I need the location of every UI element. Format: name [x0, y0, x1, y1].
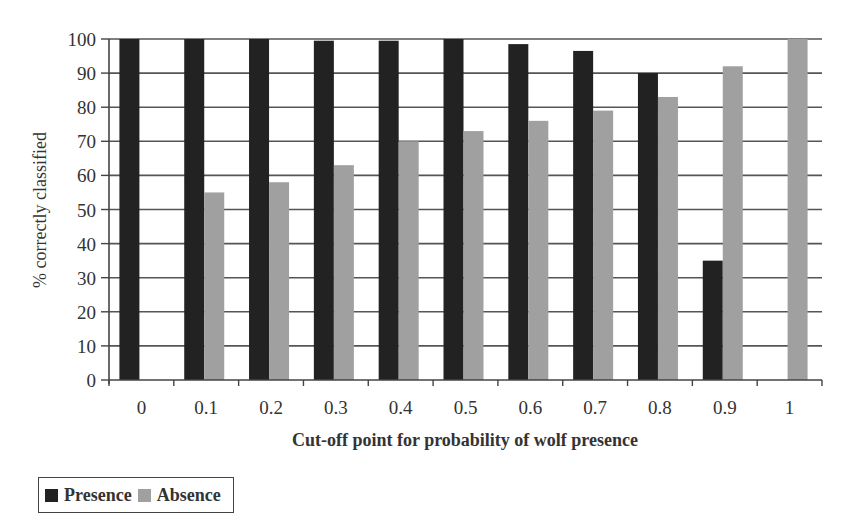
legend-label: Absence	[157, 485, 221, 506]
bar-absence	[528, 121, 548, 380]
y-axis-title: % correctly classified	[30, 132, 50, 288]
bar-presence	[508, 44, 528, 380]
bar-presence	[573, 51, 593, 380]
bar-presence	[703, 261, 723, 380]
bar-absence	[204, 192, 224, 380]
y-tick-label: 50	[77, 200, 96, 221]
bar-presence	[119, 39, 139, 380]
bar-absence	[593, 111, 613, 380]
y-tick-label: 80	[77, 97, 96, 118]
x-tick-label: 0.3	[324, 397, 348, 418]
x-tick-label: 0.4	[389, 397, 413, 418]
y-tick-label: 0	[87, 370, 97, 391]
y-tick-label: 30	[77, 268, 96, 289]
y-tick-label: 90	[77, 63, 96, 84]
legend-item-absence: Absence	[138, 485, 221, 506]
bar-presence	[184, 39, 204, 380]
bar-absence	[788, 39, 808, 380]
x-tick-label: 0.1	[194, 397, 218, 418]
x-tick-label: 0.6	[518, 397, 542, 418]
bar-presence	[444, 39, 464, 380]
y-tick-labels: 0102030405060708090100	[68, 29, 97, 391]
bar-absence	[658, 97, 678, 380]
bar-presence	[314, 41, 334, 380]
bar-absence	[334, 165, 354, 380]
x-tick-label: 0	[137, 397, 147, 418]
x-tick-label: 0.7	[583, 397, 607, 418]
y-tick-label: 40	[77, 234, 96, 255]
y-tick-label: 20	[77, 302, 96, 323]
presence-swatch-icon	[45, 489, 58, 502]
absence-swatch-icon	[138, 489, 151, 502]
y-tick-label: 100	[68, 29, 97, 50]
x-tick-label: 0.9	[713, 397, 737, 418]
legend-label: Presence	[64, 485, 132, 506]
y-tick-label: 60	[77, 165, 96, 186]
y-tick-label: 10	[77, 336, 96, 357]
legend: Presence Absence	[38, 477, 234, 513]
x-tick-label: 0.8	[648, 397, 672, 418]
y-tick-label: 70	[77, 131, 96, 152]
bar-chart: 0102030405060708090100 00.10.20.30.40.50…	[0, 0, 845, 470]
bar-absence	[464, 131, 484, 380]
bar-presence	[379, 41, 399, 380]
x-axis-title: Cut-off point for probability of wolf pr…	[292, 430, 638, 450]
bar-presence	[638, 73, 658, 380]
x-tick-label: 1	[785, 397, 795, 418]
bar-absence	[399, 141, 419, 380]
bar-absence	[269, 182, 289, 380]
bar-absence	[723, 66, 743, 380]
x-tick-label: 0.2	[259, 397, 283, 418]
bar-presence	[249, 39, 269, 380]
x-tick-labels: 00.10.20.30.40.50.60.70.80.91	[137, 397, 795, 418]
x-tick-label: 0.5	[454, 397, 478, 418]
legend-item-presence: Presence	[45, 485, 132, 506]
